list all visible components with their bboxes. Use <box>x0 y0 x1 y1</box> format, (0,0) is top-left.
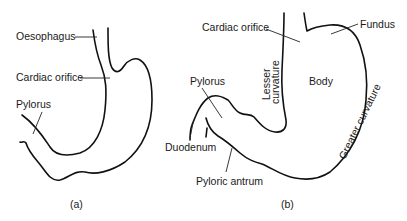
leader-pylorus-b <box>202 88 222 118</box>
label-cardiac-orifice-a: Cardiac orifice <box>16 71 83 83</box>
label-pylorus-a: Pylorus <box>16 98 51 110</box>
panel-b: Cardiac orifice Fundus Body Lesser curva… <box>165 13 395 210</box>
label-pyloric-antrum: Pyloric antrum <box>196 175 263 187</box>
panel-a-inner-wall <box>22 30 106 155</box>
stomach-diagram: Oesophagus Cardiac orifice Pylorus (a) C… <box>0 0 407 221</box>
label-lesser-curvature: Lesser curvature <box>260 60 281 104</box>
label-oesophagus: Oesophagus <box>16 30 76 42</box>
panel-a-caption: (a) <box>70 198 83 210</box>
label-fundus: Fundus <box>360 18 395 30</box>
label-lesser-curvature-line2: curvature <box>269 60 281 104</box>
label-greater-curvature: Greater curvature <box>336 82 383 161</box>
panel-a: Oesophagus Cardiac orifice Pylorus (a) <box>16 28 152 210</box>
leader-pyloric-antrum <box>226 148 232 172</box>
label-duodenum: Duodenum <box>165 141 217 153</box>
panel-b-caption: (b) <box>281 198 294 210</box>
panel-b-duodenum-stub <box>206 128 207 137</box>
label-pylorus-b: Pylorus <box>190 75 225 87</box>
label-body: Body <box>309 75 334 87</box>
label-cardiac-orifice-b: Cardiac orifice <box>202 21 269 33</box>
